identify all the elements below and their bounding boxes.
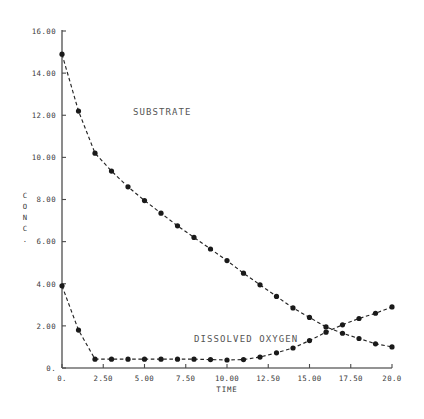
x-tick-label: 5.00 [135, 374, 154, 383]
data-point-marker [191, 357, 196, 362]
x-tick-label: 7.50 [176, 374, 195, 383]
data-point-marker [175, 357, 180, 362]
data-point-marker [76, 327, 81, 332]
y-axis-title-char: C [23, 191, 27, 200]
data-point-marker [125, 357, 130, 362]
data-point-marker [356, 336, 361, 341]
y-tick-label: 0. [46, 364, 56, 373]
data-point-marker [241, 357, 246, 362]
data-point-marker [224, 357, 229, 362]
data-point-marker [208, 357, 213, 362]
x-tick-label: 12.50 [256, 374, 280, 383]
data-point-marker [323, 324, 328, 329]
y-tick-label: 2.00 [37, 322, 56, 331]
concentration-vs-time-chart: 0.2.004.006.008.0010.0012.0014.0016.00 0… [0, 0, 424, 419]
y-tick-label: 10.00 [32, 153, 56, 162]
x-axis-title: TIME [216, 385, 237, 394]
y-axis-title: CONC. [23, 191, 27, 244]
data-point-marker [274, 350, 279, 355]
data-point-marker [389, 304, 394, 309]
data-point-marker [158, 211, 163, 216]
data-point-marker [191, 235, 196, 240]
data-point-marker [307, 338, 312, 343]
y-tick-label: 8.00 [37, 195, 56, 204]
data-point-marker [175, 223, 180, 228]
x-tick-label: 10.00 [215, 374, 239, 383]
data-point-marker [142, 198, 147, 203]
data-point-marker [76, 108, 81, 113]
data-point-marker [241, 271, 246, 276]
data-point-marker [340, 331, 345, 336]
data-point-marker [208, 246, 213, 251]
chart-background [0, 0, 424, 419]
y-tick-label: 12.00 [32, 111, 56, 120]
y-tick-label: 6.00 [37, 237, 56, 246]
data-point-marker [92, 151, 97, 156]
data-point-marker [92, 357, 97, 362]
data-point-marker [274, 294, 279, 299]
data-point-marker [109, 168, 114, 173]
data-point-marker [224, 258, 229, 263]
data-point-marker [290, 305, 295, 310]
series-label-dissolved-oxygen: DISSOLVED OXYGEN [194, 334, 298, 344]
data-point-marker [125, 184, 130, 189]
x-tick-label: 20.0 [382, 374, 401, 383]
data-point-marker [373, 341, 378, 346]
y-axis-title-char: C [23, 224, 27, 233]
x-tick-label: 0. [57, 374, 67, 383]
data-point-marker [257, 354, 262, 359]
x-tick-label: 2.50 [94, 374, 113, 383]
y-axis-title-char: N [23, 213, 27, 222]
y-tick-label: 4.00 [37, 280, 56, 289]
data-point-marker [356, 316, 361, 321]
data-point-marker [257, 282, 262, 287]
data-point-marker [142, 357, 147, 362]
data-point-marker [307, 315, 312, 320]
y-tick-label: 14.00 [32, 69, 56, 78]
data-point-marker [158, 357, 163, 362]
data-point-marker [290, 345, 295, 350]
y-axis-title-char: . [23, 235, 27, 244]
data-point-marker [389, 344, 394, 349]
x-tick-label: 17.50 [339, 374, 363, 383]
data-point-marker [59, 52, 64, 57]
data-point-marker [323, 330, 328, 335]
data-point-marker [373, 311, 378, 316]
x-tick-label: 15.00 [297, 374, 321, 383]
y-tick-label: 16.00 [32, 27, 56, 36]
data-point-marker [340, 322, 345, 327]
data-point-marker [59, 283, 64, 288]
series-label-substrate: SUBSTRATE [133, 107, 192, 117]
data-point-marker [109, 357, 114, 362]
y-axis-title-char: O [23, 202, 27, 211]
